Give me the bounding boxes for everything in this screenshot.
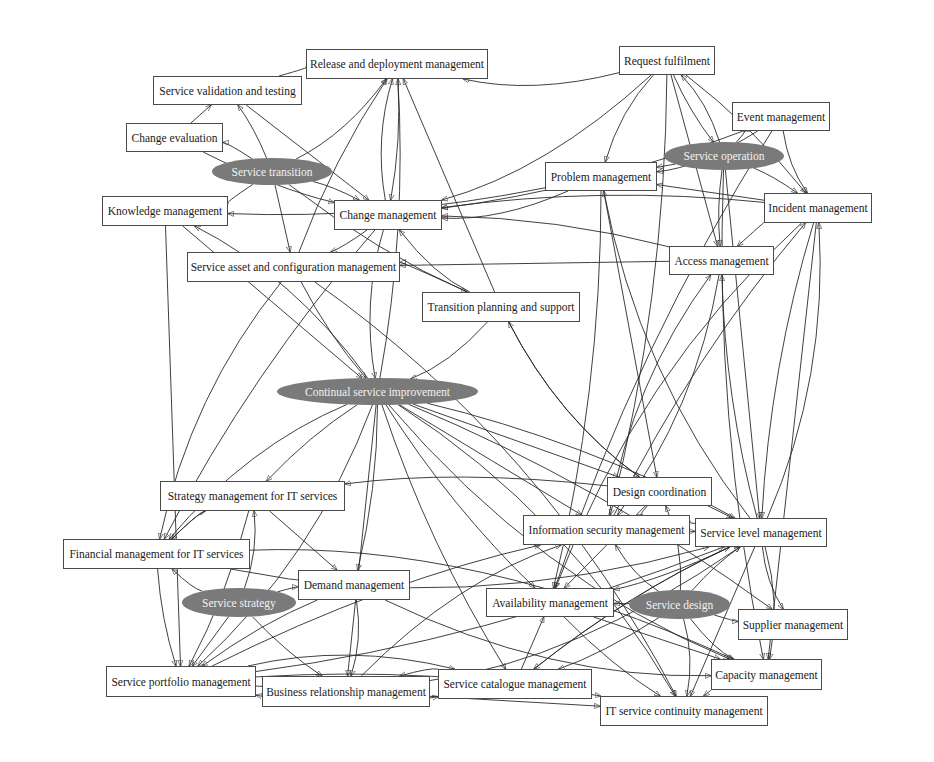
edge-request-to-info-sec — [610, 75, 667, 515]
edge-request-to-svc-operation — [674, 75, 714, 142]
edge-csi-to-portfolio — [198, 405, 372, 666]
edge-csi-to-strategy-mgmt — [267, 405, 358, 481]
edge-svc-design-to-itscm — [684, 619, 690, 696]
lifecycle-stage-svc-operation: Service operation — [664, 142, 784, 170]
process-node-incident: Incident management — [764, 193, 872, 223]
edge-transition-planning-to-design-coord — [509, 322, 640, 477]
edge-transition-planning-to-release — [403, 79, 494, 292]
process-node-portfolio: Service portfolio management — [106, 666, 256, 697]
lifecycle-stage-svc-design: Service design — [629, 590, 730, 619]
edge-svc-transition-to-validation — [238, 105, 267, 158]
edge-financial-to-portfolio — [158, 569, 176, 666]
process-node-release: Release and deployment management — [306, 49, 488, 79]
edge-design-coord-to-slm — [712, 506, 735, 518]
process-node-design-coord: Design coordination — [607, 477, 712, 506]
edge-svc-design-to-catalogue — [559, 618, 659, 669]
edge-svc-operation-to-capacity — [722, 170, 763, 659]
edge-svc-operation-to-incident — [754, 168, 797, 193]
edge-access-to-change — [442, 216, 669, 247]
edge-csi-to-design-coord — [413, 404, 618, 477]
process-node-access: Access management — [669, 246, 774, 275]
edge-svc-operation-to-request — [681, 75, 719, 142]
edge-slm-to-problem — [604, 191, 750, 518]
edge-portfolio-to-catalogue — [248, 655, 455, 669]
process-node-financial: Financial management for IT services — [63, 539, 250, 569]
process-node-change-eval: Change evaluation — [126, 123, 223, 152]
edge-release-to-change — [391, 79, 399, 200]
process-node-transition-planning: Transition planning and support — [422, 292, 580, 322]
process-node-event: Event management — [732, 102, 830, 131]
edge-incident-to-capacity — [768, 223, 816, 659]
edge-event-to-incident — [783, 131, 807, 193]
edge-slm-to-availability — [614, 547, 730, 590]
edge-csi-to-catalogue — [382, 405, 506, 669]
edge-svc-operation-to-slm — [725, 170, 759, 518]
edge-csi-to-info-sec — [399, 405, 581, 515]
process-node-problem: Problem management — [545, 162, 657, 191]
edge-svc-transition-to-knowledge — [227, 184, 253, 203]
edge-svc-strategy-to-financial — [172, 569, 202, 591]
process-node-validation: Service validation and testing — [153, 76, 302, 105]
edge-design-coord-to-strategy-mgmt — [345, 477, 607, 486]
edge-svc-transition-to-release — [296, 79, 386, 159]
edge-catalogue-to-availability — [521, 617, 543, 669]
edge-transition-planning-to-asset — [400, 262, 468, 292]
edge-csi-to-availability — [386, 405, 535, 588]
edge-slm-to-supplier — [762, 547, 783, 609]
edge-request-to-incident — [686, 75, 806, 193]
edge-incident-to-access — [738, 223, 764, 247]
edge-asset-to-csi — [301, 282, 366, 378]
process-node-catalogue: Service catalogue management — [438, 669, 592, 699]
edge-knowledge-to-csi — [183, 226, 362, 378]
edge-svc-design-to-capacity — [690, 619, 733, 659]
edge-svc-operation-to-access — [719, 170, 722, 246]
edge-svc-transition-to-change — [313, 181, 359, 200]
process-node-info-sec: Information security management — [523, 515, 690, 545]
edge-svc-operation-to-problem — [657, 164, 675, 167]
edge-change-to-release — [381, 79, 392, 200]
edge-request-to-problem — [605, 75, 653, 162]
process-node-capacity: Capacity management — [711, 659, 822, 690]
edge-svc-operation-to-event — [736, 131, 745, 142]
edge-svc-transition-to-change-eval — [223, 142, 252, 158]
process-node-slm: Service level management — [695, 518, 827, 547]
process-node-asset: Service asset and configuration manageme… — [187, 252, 400, 282]
process-node-itscm: IT service continuity management — [600, 696, 768, 726]
process-node-request: Request fulfilment — [619, 46, 715, 75]
edge-validation-to-release — [279, 67, 307, 76]
edge-strategy-mgmt-to-demand — [270, 511, 337, 570]
edge-availability-to-capacity — [594, 617, 720, 659]
lifecycle-stage-svc-strategy: Service strategy — [182, 588, 296, 617]
process-node-demand: Demand management — [298, 570, 410, 600]
edge-svc-transition-to-asset — [275, 185, 290, 252]
process-node-availability: Availability management — [486, 588, 614, 617]
edge-change-eval-to-validation — [191, 105, 211, 123]
lifecycle-stage-csi: Continual service improvement — [277, 378, 478, 405]
edge-svc-design-to-supplier — [714, 615, 738, 622]
edge-design-coord-to-transition-planning — [509, 322, 640, 477]
edge-transition-planning-to-change — [399, 230, 469, 292]
edge-svc-strategy-to-demand — [278, 587, 299, 592]
process-node-brm: Business relationship management — [262, 676, 430, 707]
edge-slm-to-incident — [767, 223, 820, 518]
edge-transition-planning-to-csi — [411, 322, 488, 379]
lifecycle-stage-svc-transition: Service transition — [212, 158, 332, 185]
edge-access-to-asset — [400, 261, 669, 265]
edge-csi-to-brm — [348, 405, 377, 676]
edge-knowledge-to-portfolio — [166, 226, 181, 666]
edge-change-to-asset — [331, 230, 367, 252]
edge-problem-to-design-coord — [604, 191, 657, 477]
process-node-knowledge: Knowledge management — [102, 196, 228, 226]
process-node-change: Change management — [334, 200, 442, 230]
itil-process-graph: Release and deployment managementRequest… — [0, 0, 934, 762]
process-node-strategy-mgmt: Strategy management for IT services — [160, 481, 345, 511]
process-node-supplier: Supplier management — [738, 609, 848, 640]
